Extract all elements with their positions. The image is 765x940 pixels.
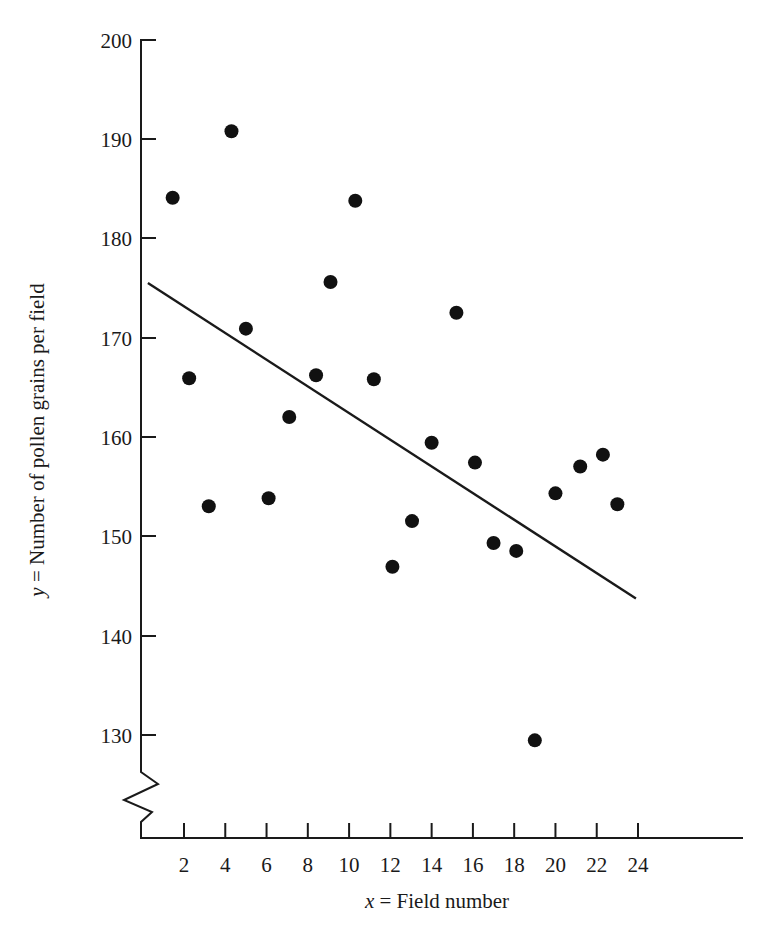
- x-tick-label: 20: [545, 853, 566, 877]
- x-tick-label: 10: [339, 853, 360, 877]
- data-point: [324, 275, 338, 289]
- x-tick-label: 2: [179, 853, 190, 877]
- data-point: [596, 448, 610, 462]
- x-axis-title: x = Field number: [364, 889, 509, 913]
- data-point: [182, 371, 196, 385]
- x-tick-label: 12: [380, 853, 401, 877]
- x-tick-label: 22: [586, 853, 607, 877]
- x-tick-20: 20: [545, 823, 566, 877]
- y-axis-title: y = Number of pollen grains per field: [25, 283, 49, 599]
- data-point: [548, 486, 562, 500]
- y-tick-label: 150: [101, 525, 133, 549]
- x-tick-label: 24: [628, 853, 650, 877]
- y-tick-170: 170: [101, 327, 157, 351]
- y-tick-label: 160: [101, 426, 133, 450]
- x-tick-2: 2: [179, 823, 190, 877]
- x-tick-6: 6: [261, 823, 272, 877]
- data-point: [487, 536, 501, 550]
- x-tick-24: 24: [628, 823, 650, 877]
- data-point: [509, 544, 523, 558]
- y-tick-label: 170: [101, 327, 133, 351]
- data-point: [425, 436, 439, 450]
- x-tick-label: 4: [220, 853, 231, 877]
- y-axis-break-zigzag: [124, 760, 158, 838]
- y-tick-label: 130: [101, 724, 133, 748]
- data-point: [348, 194, 362, 208]
- y-axis-title-var: y: [25, 587, 49, 599]
- data-point: [309, 368, 323, 382]
- data-point: [468, 456, 482, 470]
- y-tick-200: 200: [101, 29, 157, 53]
- data-point: [367, 372, 381, 386]
- x-tick-8: 8: [303, 823, 314, 877]
- x-tick-22: 22: [586, 823, 607, 877]
- x-axis-ticks: 24681012141618202224: [179, 823, 649, 877]
- x-tick-label: 8: [303, 853, 314, 877]
- y-axis-title-rest: = Number of pollen grains per field: [25, 283, 49, 588]
- data-point: [262, 491, 276, 505]
- y-tick-150: 150: [101, 525, 157, 549]
- regression-trend-line: [148, 283, 636, 598]
- scatter-plot-figure: 200 190 180 170 160 150: [0, 0, 765, 940]
- x-tick-label: 16: [462, 853, 483, 877]
- x-tick-label: 6: [261, 853, 272, 877]
- y-tick-label: 190: [101, 128, 133, 152]
- data-point: [449, 306, 463, 320]
- y-tick-label: 200: [101, 29, 133, 53]
- x-tick-18: 18: [504, 823, 525, 877]
- data-points-group: [166, 124, 625, 747]
- x-tick-14: 14: [421, 823, 443, 877]
- x-tick-16: 16: [462, 823, 483, 877]
- x-tick-12: 12: [380, 823, 401, 877]
- plot-canvas: 200 190 180 170 160 150: [0, 0, 765, 940]
- y-tick-190: 190: [101, 128, 157, 152]
- y-tick-160: 160: [101, 426, 157, 450]
- x-axis-title-rest: = Field number: [374, 889, 509, 913]
- data-point: [239, 322, 253, 336]
- y-axis-ticks: 200 190 180 170 160 150: [101, 29, 157, 748]
- data-point: [610, 497, 624, 511]
- y-tick-140: 140: [101, 625, 157, 649]
- y-tick-130: 130: [101, 724, 157, 748]
- data-point: [282, 410, 296, 424]
- y-tick-label: 140: [101, 625, 133, 649]
- y-tick-label: 180: [101, 227, 133, 251]
- data-point: [573, 460, 587, 474]
- x-tick-label: 14: [421, 853, 443, 877]
- data-point: [224, 124, 238, 138]
- x-tick-10: 10: [339, 823, 360, 877]
- y-tick-180: 180: [101, 227, 157, 251]
- x-tick-label: 18: [504, 853, 525, 877]
- data-point: [166, 191, 180, 205]
- data-point: [385, 560, 399, 574]
- x-tick-4: 4: [220, 823, 231, 877]
- data-point: [528, 733, 542, 747]
- data-point: [405, 514, 419, 528]
- data-point: [202, 499, 216, 513]
